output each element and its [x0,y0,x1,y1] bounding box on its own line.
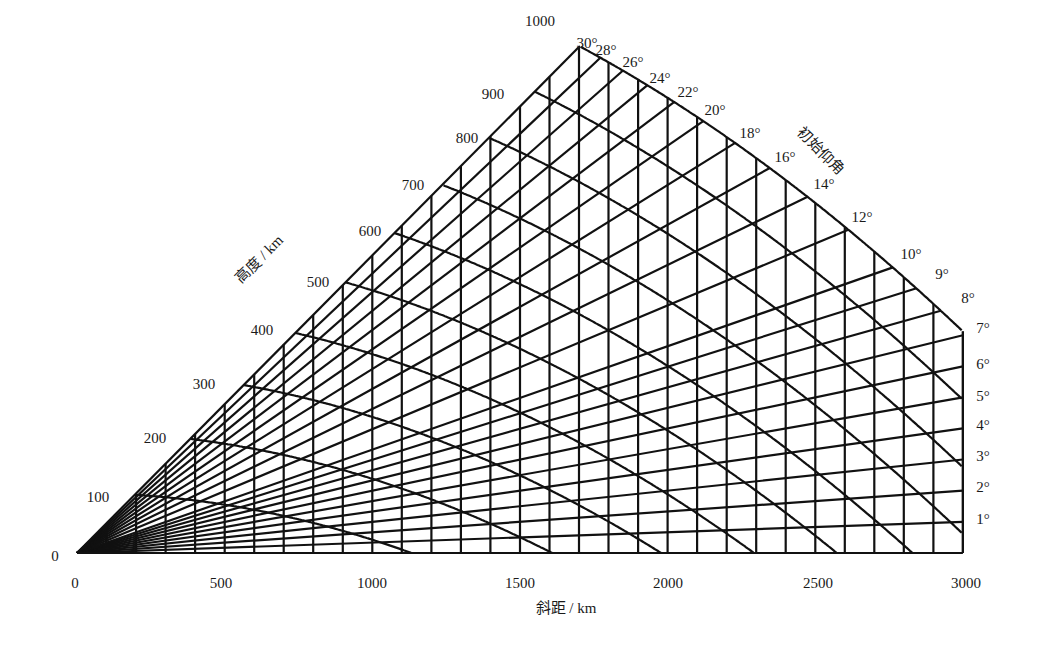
x-axis-title: 斜距 / km [536,596,597,617]
altitude-tick-label: 600 [359,224,382,239]
elevation-tick-label: 5° [976,389,990,404]
elevation-tick-label: 16° [775,150,796,165]
elevation-tick-label: 24° [650,71,671,86]
x-tick-label: 2500 [803,576,833,591]
elevation-tick-label: 8° [961,291,975,306]
elevation-ray-26 [77,71,623,554]
altitude-tick-label: 200 [144,431,167,446]
elevation-tick-label: 3° [976,449,990,464]
x-tick-label: 3000 [951,576,981,591]
x-tick-label: 1500 [505,576,535,591]
altitude-tick-label: 1000 [525,14,555,29]
slant-range-altitude-elevation-nomogram [0,0,1038,650]
elevation-tick-label: 26° [623,55,644,70]
elevation-ray-18 [77,143,735,553]
elevation-tick-label: 14° [814,177,835,192]
altitude-tick-label: 500 [307,275,330,290]
altitude-tick-label: 800 [456,131,479,146]
elevation-tick-label: 22° [678,85,699,100]
elevation-ray-9 [77,288,917,553]
elevation-tick-label: 30° [577,36,598,51]
elevation-tick-label: 1° [976,512,990,527]
x-tick-label: 1000 [357,576,387,591]
elevation-tick-label: 2° [976,480,990,495]
elevation-tick-label: 12° [852,210,873,225]
elevation-tick-label: 4° [976,418,990,433]
elevation-tick-label: 28° [596,43,617,58]
altitude-tick-label: 300 [193,377,216,392]
altitude-tick-label: 0 [51,549,59,564]
x-tick-label: 500 [210,576,233,591]
elevation-tick-label: 7° [976,321,990,336]
altitude-tick-label: 100 [87,490,110,505]
x-tick-label: 0 [71,576,79,591]
altitude-line-700 [444,185,962,533]
elevation-ray-22 [77,102,674,553]
elevation-tick-label: 20° [705,103,726,118]
altitude-tick-label: 400 [251,323,274,338]
altitude-tick-label: 700 [402,178,425,193]
altitude-tick-label: 900 [482,87,505,102]
elevation-tick-label: 6° [976,357,990,372]
elevation-tick-label: 9° [935,267,949,282]
elevation-tick-label: 18° [740,126,761,141]
elevation-tick-label: 10° [901,247,922,262]
x-tick-label: 2000 [653,576,683,591]
